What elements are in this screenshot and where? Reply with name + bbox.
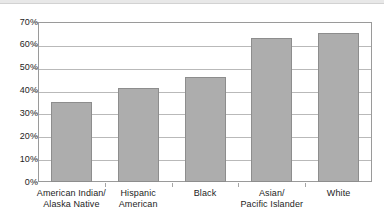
bar-chart-figure: 70% 60% 50% 40% 30% 20% 10% 0% <box>0 0 384 217</box>
bar-american-indian-alaska-native <box>51 102 92 182</box>
x-axis-label-line: American <box>84 199 192 210</box>
x-tick-mark <box>238 183 239 187</box>
bar-white <box>318 33 359 182</box>
x-axis-label-line: White <box>300 188 378 199</box>
page-scan-band-line <box>0 3 384 4</box>
bars-layer <box>38 22 372 182</box>
x-tick-mark <box>172 183 173 187</box>
x-axis-label-line: Pacific Islander <box>213 199 331 210</box>
bar-hispanic-american <box>118 88 159 182</box>
x-tick-mark <box>305 183 306 187</box>
x-tick-mark <box>105 183 106 187</box>
y-axis: 70% 60% 50% 40% 30% 20% 10% 0% <box>0 0 38 217</box>
bar-asian-pacific-islander <box>251 38 292 182</box>
y-tick-mark <box>33 182 38 183</box>
bar-black <box>185 77 226 182</box>
x-axis-label-white: White <box>300 188 378 199</box>
